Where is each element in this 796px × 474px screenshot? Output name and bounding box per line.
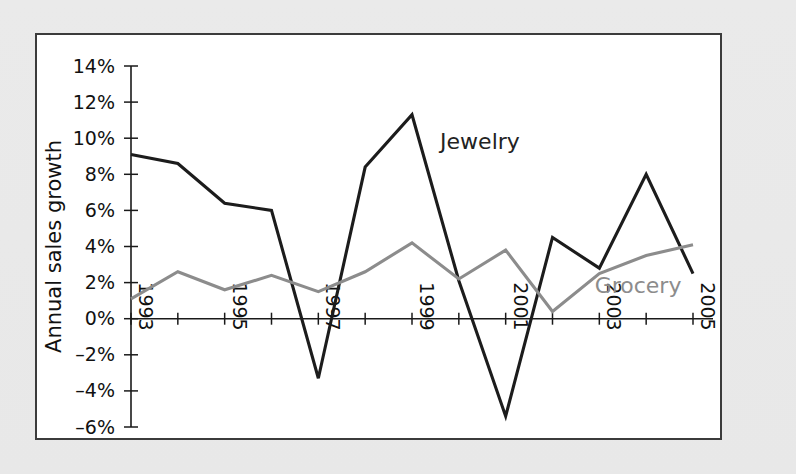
- figure-root: 14%12%10%8%6%4%2%0%–2%–4%–6% 19931995199…: [0, 0, 796, 474]
- y-axis-tick-label: 12%: [73, 91, 115, 113]
- x-axis-tick-label: 1999: [416, 282, 438, 330]
- y-axis-tick-label: 8%: [85, 163, 115, 185]
- series-label-grocery: Grocery: [595, 273, 682, 298]
- y-axis-tick-label: 2%: [85, 271, 115, 293]
- y-axis-tick-label: –6%: [75, 416, 115, 438]
- series-line-jewelry: [131, 115, 693, 416]
- y-axis-tick-label: –2%: [75, 343, 115, 365]
- y-axis-tick-label: 4%: [85, 235, 115, 257]
- y-axis-tick-label: 10%: [73, 127, 115, 149]
- series-lines: [131, 115, 693, 416]
- y-axis-tick-label: 0%: [85, 307, 115, 329]
- series-label-jewelry: Jewelry: [438, 129, 520, 154]
- y-axis-tick-label: –4%: [75, 379, 115, 401]
- line-chart: 14%12%10%8%6%4%2%0%–2%–4%–6% 19931995199…: [37, 35, 720, 438]
- y-axis-title-label: Annual sales growth: [42, 140, 66, 353]
- y-axis: 14%12%10%8%6%4%2%0%–2%–4%–6%: [73, 55, 138, 438]
- y-axis-tick-label: 14%: [73, 55, 115, 77]
- y-axis-title: Annual sales growth: [42, 140, 66, 353]
- x-axis-tick-label: 2005: [697, 282, 719, 330]
- x-axis-tick-label: 1995: [229, 282, 251, 330]
- chart-frame: 14%12%10%8%6%4%2%0%–2%–4%–6% 19931995199…: [35, 33, 722, 440]
- y-axis-tick-label: 6%: [85, 199, 115, 221]
- series-labels: JewelryGrocery: [438, 129, 681, 298]
